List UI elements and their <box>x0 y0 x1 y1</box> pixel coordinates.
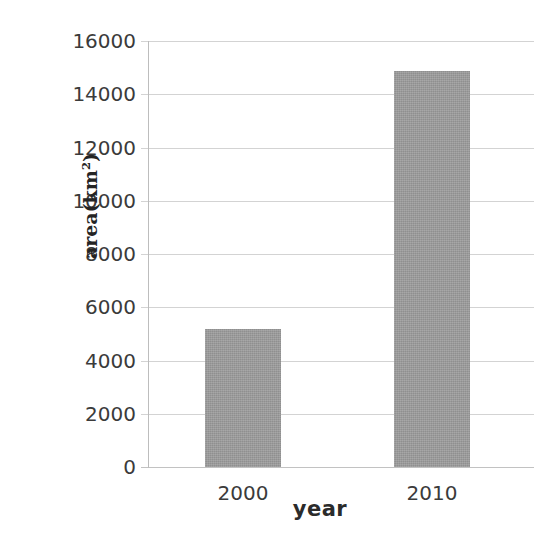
y-axis-title-base: area(km <box>79 170 101 259</box>
bar-2000[interactable] <box>205 329 281 467</box>
y-tick-label: 14000 <box>56 84 136 104</box>
gridline-0 <box>141 467 534 468</box>
x-axis-title: year <box>260 497 380 521</box>
y-tick-label: 16000 <box>56 31 136 51</box>
y-tick-label: 4000 <box>56 351 136 371</box>
y-axis-title-superscript: 2 <box>79 162 93 170</box>
y-tick-label: 6000 <box>56 297 136 317</box>
y-axis-title-tail: ) <box>79 153 101 162</box>
y-axis-title: area(km2) <box>79 126 101 286</box>
y-tick-label: 0 <box>56 457 136 477</box>
plot-area <box>148 41 527 467</box>
bar-chart: 0200040006000800010000120001400016000 20… <box>0 0 553 549</box>
y-tick-label: 2000 <box>56 404 136 424</box>
bar-2010[interactable] <box>394 71 470 467</box>
x-tick-label-2010: 2010 <box>372 481 492 505</box>
